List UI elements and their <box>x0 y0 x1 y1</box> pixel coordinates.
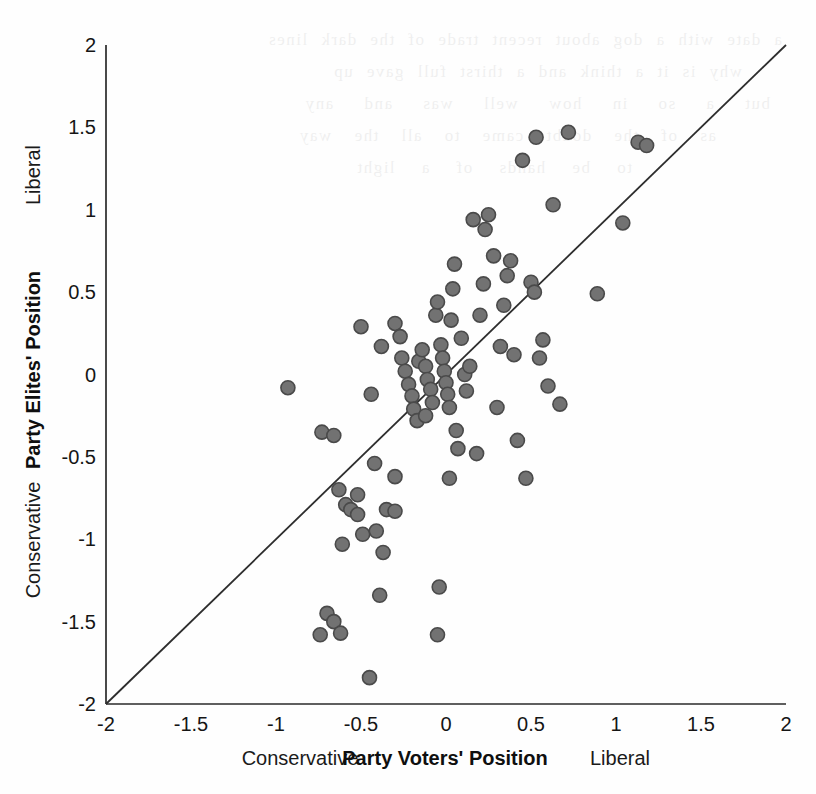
data-point <box>449 424 463 438</box>
x-tick-label: -1.5 <box>174 713 208 735</box>
data-point <box>590 287 604 301</box>
x-tick-label: 1 <box>610 713 621 735</box>
data-point <box>374 339 388 353</box>
data-point <box>363 671 377 685</box>
data-point <box>441 387 455 401</box>
data-point <box>529 130 543 144</box>
data-point <box>507 348 521 362</box>
x-tick-label: -0.5 <box>344 713 378 735</box>
data-point <box>444 313 458 327</box>
x-tick-label: 0.5 <box>517 713 545 735</box>
data-point <box>351 488 365 502</box>
scatter-plot-figure: a date with a dog about recent trade of … <box>0 0 816 794</box>
data-point <box>446 282 460 296</box>
y-axis-tick-labels: -2-1.5-1-0.500.511.52 <box>62 34 96 715</box>
y-tick-label: 0.5 <box>68 281 96 303</box>
scatter-chart-canvas: -2-1.5-1-0.500.511.52 -2-1.5-1-0.500.511… <box>0 0 816 794</box>
y-tick-label: 0 <box>85 364 96 386</box>
data-point <box>429 308 443 322</box>
y-tick-label: -1 <box>78 528 96 550</box>
data-point <box>431 295 445 309</box>
data-point <box>373 588 387 602</box>
data-point <box>419 409 433 423</box>
data-point <box>454 331 468 345</box>
x-tick-label: 2 <box>780 713 791 735</box>
data-point <box>281 381 295 395</box>
data-point <box>335 537 349 551</box>
y-tick-label: 1 <box>85 199 96 221</box>
data-point <box>332 483 346 497</box>
x-tick-label: 0 <box>440 713 451 735</box>
data-point <box>351 508 365 522</box>
y-axis-bottom-anchor-label: Conservative <box>22 482 44 599</box>
data-point <box>434 338 448 352</box>
data-point <box>497 298 511 312</box>
data-point <box>448 257 462 271</box>
data-point <box>541 379 555 393</box>
y-tick-label: -2 <box>78 693 96 715</box>
data-point <box>354 320 368 334</box>
data-point <box>313 628 327 642</box>
x-axis-title: Party Voters' Position <box>342 747 548 769</box>
data-point <box>442 400 456 414</box>
data-point <box>415 343 429 357</box>
data-point <box>466 213 480 227</box>
x-axis-left-anchor-label: Conservative <box>242 747 359 769</box>
data-point <box>463 359 477 373</box>
data-point <box>388 470 402 484</box>
data-point <box>487 249 501 263</box>
data-point <box>510 433 524 447</box>
data-point <box>369 524 383 538</box>
data-point <box>459 384 473 398</box>
data-point <box>533 351 547 365</box>
data-point <box>368 456 382 470</box>
data-point <box>500 269 514 283</box>
data-point <box>388 504 402 518</box>
data-point <box>398 364 412 378</box>
y-axis-title: Party Elites' Position <box>22 271 44 469</box>
data-point <box>436 351 450 365</box>
x-axis-right-anchor-label: Liberal <box>590 747 650 769</box>
x-tick-label: -1 <box>267 713 285 735</box>
data-point <box>504 254 518 268</box>
y-axis-top-anchor-label: Liberal <box>22 145 44 205</box>
data-point <box>493 339 507 353</box>
data-point <box>476 277 490 291</box>
data-point <box>527 285 541 299</box>
data-point <box>424 382 438 396</box>
y-tick-label: -0.5 <box>62 446 96 468</box>
data-point <box>395 351 409 365</box>
data-point <box>393 330 407 344</box>
data-point <box>419 359 433 373</box>
data-point <box>470 447 484 461</box>
data-point <box>442 471 456 485</box>
data-point <box>546 198 560 212</box>
data-point <box>553 397 567 411</box>
data-point <box>482 208 496 222</box>
data-point <box>451 442 465 456</box>
x-tick-label: 1.5 <box>687 713 715 735</box>
data-point <box>519 471 533 485</box>
data-point <box>473 308 487 322</box>
data-point <box>364 387 378 401</box>
x-tick-label: -2 <box>97 713 115 735</box>
data-points-layer <box>281 125 654 684</box>
data-point <box>561 125 575 139</box>
data-point <box>334 626 348 640</box>
y-tick-label: 2 <box>85 34 96 56</box>
data-point <box>516 153 530 167</box>
data-point <box>431 628 445 642</box>
data-point <box>536 333 550 347</box>
data-point <box>490 400 504 414</box>
data-point <box>425 396 439 410</box>
data-point <box>327 428 341 442</box>
data-point <box>376 545 390 559</box>
x-axis-tick-labels: -2-1.5-1-0.500.511.52 <box>97 713 791 735</box>
y-tick-label: 1.5 <box>68 116 96 138</box>
data-point <box>616 216 630 230</box>
data-point <box>405 389 419 403</box>
data-point <box>356 527 370 541</box>
data-point <box>388 316 402 330</box>
y-tick-label: -1.5 <box>62 611 96 633</box>
data-point <box>432 580 446 594</box>
